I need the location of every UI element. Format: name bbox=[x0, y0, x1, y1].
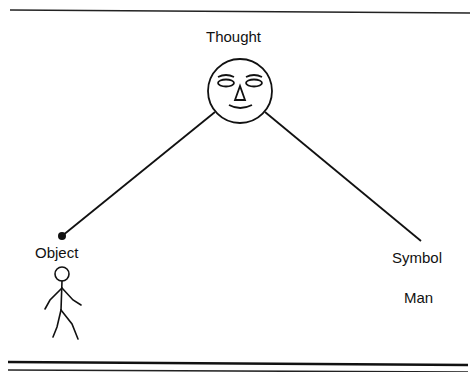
bottom-rule-upper bbox=[8, 362, 468, 365]
stick-figure-icon bbox=[45, 267, 81, 339]
diagram-canvas bbox=[0, 0, 471, 372]
thought-label: Thought bbox=[206, 28, 261, 45]
symbol-label: Symbol bbox=[392, 249, 442, 266]
object-label: Object bbox=[35, 244, 78, 261]
object-dot-icon bbox=[58, 232, 66, 240]
symbol-word-label: Man bbox=[404, 289, 433, 306]
face-icon bbox=[208, 59, 272, 123]
edge-thought-symbol bbox=[265, 112, 421, 241]
edge-thought-object bbox=[62, 112, 215, 236]
top-rule bbox=[10, 10, 470, 13]
